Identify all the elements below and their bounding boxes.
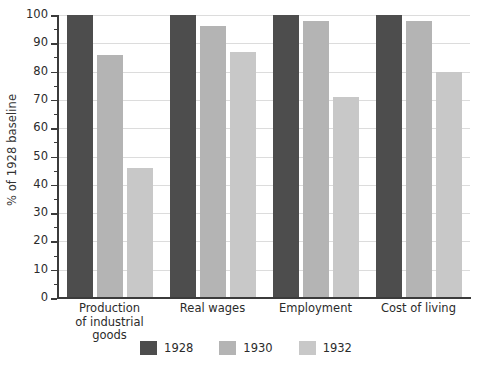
x-axis-category-label: Productionof industrialgoods bbox=[58, 302, 161, 343]
x-axis-category-label-line: Cost of living bbox=[367, 302, 470, 316]
bar bbox=[127, 168, 153, 298]
gridline bbox=[58, 15, 470, 16]
bar bbox=[406, 21, 432, 298]
y-axis-tick-label: 50 bbox=[0, 151, 48, 163]
y-axis-tick-label: 30 bbox=[0, 207, 48, 219]
legend-label: 1932 bbox=[323, 341, 352, 355]
legend-label: 1928 bbox=[164, 341, 193, 355]
bar bbox=[97, 55, 123, 298]
x-axis-category-label-line: Employment bbox=[264, 302, 367, 316]
x-axis-category-label-line: Real wages bbox=[161, 302, 264, 316]
legend-swatch bbox=[140, 341, 157, 355]
x-axis-category-label-line: of industrial bbox=[58, 316, 161, 330]
bar bbox=[230, 52, 256, 298]
legend-item: 1930 bbox=[219, 341, 272, 355]
x-axis-spine bbox=[57, 297, 471, 299]
y-axis-tick-label: 100 bbox=[0, 9, 48, 21]
y-axis-tick-label: 40 bbox=[0, 179, 48, 191]
y-axis-spine bbox=[57, 15, 59, 299]
legend-swatch bbox=[219, 341, 236, 355]
bar bbox=[273, 15, 299, 298]
bar bbox=[200, 26, 226, 298]
y-axis-tick-label: 90 bbox=[0, 37, 48, 49]
x-axis-category-label: Employment bbox=[264, 302, 367, 316]
legend-item: 1928 bbox=[140, 341, 193, 355]
legend-swatch bbox=[299, 341, 316, 355]
legend-item: 1932 bbox=[299, 341, 352, 355]
bar bbox=[67, 15, 93, 298]
x-axis-category-label: Real wages bbox=[161, 302, 264, 316]
y-axis-tick-label: 20 bbox=[0, 235, 48, 247]
legend-label: 1930 bbox=[243, 341, 272, 355]
bar bbox=[333, 97, 359, 298]
chart-legend: 192819301932 bbox=[0, 341, 492, 355]
bar bbox=[436, 72, 462, 298]
plot-area bbox=[58, 15, 470, 298]
y-axis-tick-label: 70 bbox=[0, 94, 48, 106]
bar bbox=[170, 15, 196, 298]
bar bbox=[376, 15, 402, 298]
y-axis-tick-label: 0 bbox=[0, 292, 48, 304]
x-axis-category-label: Cost of living bbox=[367, 302, 470, 316]
bar bbox=[303, 21, 329, 298]
bar-chart: % of 1928 baseline 010203040506070809010… bbox=[0, 0, 492, 375]
y-axis-tick-label: 80 bbox=[0, 66, 48, 78]
y-axis-tick-label: 10 bbox=[0, 264, 48, 276]
x-axis-category-label-line: Production bbox=[58, 302, 161, 316]
y-axis-tick-label: 60 bbox=[0, 122, 48, 134]
